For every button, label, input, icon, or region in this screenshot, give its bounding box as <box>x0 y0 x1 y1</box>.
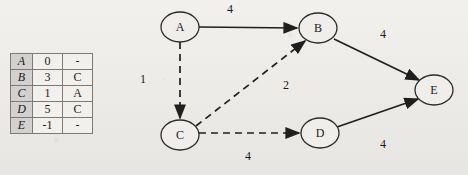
graph-node-a: A <box>161 12 199 42</box>
edge-d-e <box>337 99 418 127</box>
edge-weight-d-e: 4 <box>380 137 386 151</box>
node-label-a: A <box>176 20 185 34</box>
edge-weight-c-d: 4 <box>245 149 251 163</box>
node-label-c: C <box>176 128 184 142</box>
graph-node-b: B <box>299 13 337 43</box>
edge-b-e <box>334 39 419 80</box>
edge-a-b <box>199 27 297 28</box>
edge-weight-a-c: 1 <box>140 72 146 86</box>
nodes-layer: A B C D E <box>161 12 453 150</box>
edge-weight-b-e: 4 <box>380 27 386 41</box>
graph-node-d: D <box>301 118 339 148</box>
node-label-d: D <box>316 126 325 140</box>
edges-layer <box>180 27 419 133</box>
node-label-b: B <box>314 21 322 35</box>
graph-node-c: C <box>161 120 199 150</box>
graph-node-e: E <box>415 75 453 105</box>
edge-weight-c-b: 2 <box>283 78 289 92</box>
edge-weight-a-b: 4 <box>227 2 233 16</box>
graph-diagram: 4 1 2 4 4 4 A B C D E <box>0 0 468 175</box>
node-label-e: E <box>430 83 437 97</box>
